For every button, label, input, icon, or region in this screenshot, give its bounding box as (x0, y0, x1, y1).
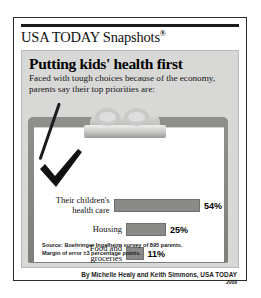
page-title: Putting kids' health first (29, 56, 238, 72)
clipboard-illustration: Their children'shealth care54%Housing25%… (28, 107, 228, 263)
byline-authors: By Michelle Healy and Keith Simmons, USA… (21, 271, 237, 280)
checkmark-icon (38, 149, 84, 189)
source-line-2: Margin of error ±3 percentage points. (42, 249, 216, 257)
byline: By Michelle Healy and Keith Simmons, USA… (21, 271, 239, 286)
chart-row-label: Their children'shealth care (40, 196, 114, 215)
chart-row: Their children'shealth care54% (40, 195, 222, 217)
chart-bar-wrap: 54% (114, 199, 222, 212)
chart-bar-value: 25% (170, 225, 188, 235)
masthead-title-text: USA TODAY Snapshots (21, 29, 160, 45)
masthead-rule (21, 24, 239, 27)
byline-year: 2009 (21, 279, 237, 286)
chart-bar-value: 54% (204, 201, 222, 211)
chart-bar-wrap: 25% (126, 223, 222, 236)
source-line-1: Source: Boehringer Ingelheim survey of 8… (42, 241, 216, 249)
chart-bar (126, 223, 166, 236)
masthead-title: USA TODAY Snapshots® (21, 29, 239, 48)
registered-trademark-icon: ® (160, 29, 166, 38)
snapshot-panel: Putting kids' health first Faced with to… (21, 50, 239, 268)
chart-row-label: Housing (40, 225, 126, 234)
clip-loop-right-icon (124, 108, 149, 126)
source-note: Source: Boehringer Ingelheim survey of 8… (42, 241, 216, 258)
clipboard-clip-base (84, 125, 166, 138)
outer-frame: USA TODAY Snapshots® Putting kids' healt… (13, 17, 247, 281)
chart-bar (114, 199, 200, 212)
chart-row: Their own or spouse/partner's health car… (40, 267, 222, 268)
clip-loop-left-icon (95, 108, 120, 126)
chart-row: Housing25% (40, 219, 222, 241)
snapshot-page: USA TODAY Snapshots® Putting kids' healt… (0, 0, 261, 298)
frame-inner: USA TODAY Snapshots® Putting kids' healt… (14, 18, 246, 280)
subtitle: Faced with tough choices because of the … (29, 73, 229, 95)
